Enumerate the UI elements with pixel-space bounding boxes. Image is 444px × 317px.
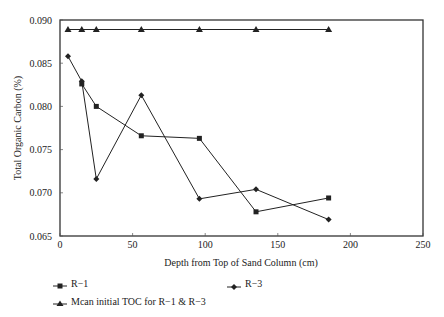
diamond-marker-icon bbox=[326, 217, 332, 223]
x-tick-label: 0 bbox=[58, 239, 63, 250]
square-marker-icon bbox=[197, 136, 202, 141]
diamond-marker-icon bbox=[253, 186, 259, 192]
plot-frame bbox=[60, 20, 423, 236]
legend-label-r3: R−3 bbox=[245, 278, 262, 289]
square-marker-icon bbox=[58, 284, 63, 289]
legend-item-r3: R−3 bbox=[227, 278, 262, 290]
y-tick-label: 0.065 bbox=[30, 231, 53, 242]
series-r-1 bbox=[79, 81, 331, 214]
diamond-marker-icon bbox=[196, 196, 202, 202]
triangle-marker-icon bbox=[57, 301, 64, 307]
legend-label-mean-initial-toc: Mcan initial TOC for R−1 & R−3 bbox=[71, 296, 206, 307]
y-tick-label: 0.085 bbox=[30, 58, 53, 69]
diamond-marker-icon bbox=[65, 53, 71, 59]
square-marker-icon bbox=[94, 104, 99, 109]
legend-label-r1: R−1 bbox=[71, 278, 88, 289]
square-marker-icon bbox=[326, 195, 331, 200]
diamond-marker-icon bbox=[93, 176, 99, 182]
legend-item-r1: R−1 bbox=[53, 278, 88, 289]
x-tick-label: 100 bbox=[198, 239, 213, 250]
chart: 0501001502002500.0650.0700.0750.0800.085… bbox=[0, 0, 444, 317]
square-marker-icon bbox=[254, 209, 259, 214]
x-tick-label: 150 bbox=[270, 239, 285, 250]
x-axis-label: Depth from Top of Sand Column (cm) bbox=[164, 257, 318, 269]
diamond-marker-icon bbox=[231, 284, 237, 290]
legend-item-mean-initial-toc: Mcan initial TOC for R−1 & R−3 bbox=[53, 296, 206, 307]
y-tick-label: 0.075 bbox=[30, 144, 53, 155]
y-tick-label: 0.080 bbox=[30, 101, 53, 112]
x-tick-label: 200 bbox=[343, 239, 358, 250]
x-tick-label: 50 bbox=[128, 239, 138, 250]
series-mean-initial-toc-for-r-1-r-3 bbox=[64, 26, 332, 32]
diamond-marker-icon bbox=[138, 92, 144, 98]
x-tick-label: 250 bbox=[416, 239, 431, 250]
y-axis-label: Total Organic Carbon (%) bbox=[12, 76, 24, 180]
legend: R−1 R−3 Mcan initial TOC for R−1 & R−3 bbox=[53, 278, 262, 307]
data-series bbox=[64, 26, 332, 223]
y-tick-label: 0.070 bbox=[30, 187, 53, 198]
y-tick-label: 0.090 bbox=[30, 15, 53, 26]
square-marker-icon bbox=[139, 133, 144, 138]
